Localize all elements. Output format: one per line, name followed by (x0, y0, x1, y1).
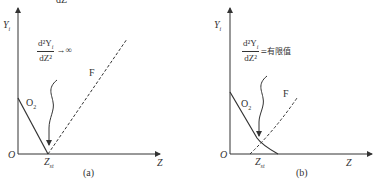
diagram-canvas (0, 0, 378, 181)
y-axis-label-b: Yi (214, 20, 221, 32)
panel-a-graphics (18, 8, 160, 154)
caption-a: (a) (83, 168, 94, 178)
o2-label-b: O2 (241, 99, 251, 111)
origin-label-b: O (220, 150, 227, 160)
zst-label-b: Zst (255, 157, 265, 169)
x-axis-label-b: Z (346, 158, 352, 168)
origin-label-a: O (8, 150, 15, 160)
cropped-formula-fragment: dZ² (56, 0, 70, 5)
o2-curve-b (230, 92, 278, 154)
wavy-arrow-b (259, 76, 267, 136)
caption-b: (b) (296, 168, 308, 178)
formula-b: d²Yi dZ² =有限值 (242, 38, 291, 63)
f-label-a: F (89, 68, 95, 78)
o2-label-a: O2 (26, 98, 36, 110)
f-dashed-curve-b (250, 98, 297, 154)
wavy-arrow-a (49, 80, 57, 145)
zst-label-a: Zst (44, 157, 54, 169)
panel-b-graphics (230, 8, 372, 154)
formula-a: d²Yi dZ² →∞ (37, 38, 72, 63)
y-axis-label-a: Yi (3, 20, 10, 32)
f-label-b: F (283, 89, 289, 99)
x-axis-label-a: Z (157, 158, 163, 168)
